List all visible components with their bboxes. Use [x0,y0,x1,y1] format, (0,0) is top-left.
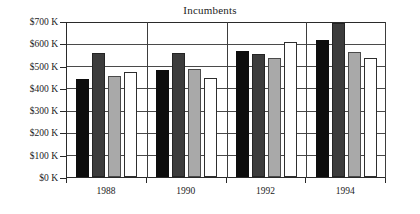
x-axis-tick-label: 1994 [305,186,385,196]
x-axis-tick-mark [66,178,67,183]
bar-chart: Incumbents $0 K$100 K$200 K$300 K$400 K$… [0,0,420,214]
group-separator [147,22,148,178]
bar-1994-series-4 [364,58,377,177]
bar-1990-series-4 [204,78,217,177]
y-axis-tick-label: $200 K [2,128,58,138]
chart-title: Incumbents [0,4,420,16]
group-separator [306,22,307,178]
bar-1994-series-3 [348,52,361,177]
bar-1990-series-3 [188,69,201,177]
y-axis-tick-label: $500 K [2,62,58,72]
bar-1988-series-4 [124,72,137,177]
bar-1988-series-3 [108,76,121,177]
bar-1994-series-2 [332,23,345,177]
y-axis-tick-label: $400 K [2,84,58,94]
y-axis-tick-label: $700 K [2,17,58,27]
x-axis-tick-mark [226,178,227,183]
y-axis-tick-label: $600 K [2,39,58,49]
bar-1992-series-1 [236,51,249,177]
y-axis-tick-label: $0 K [2,173,58,183]
x-axis-tick-mark [385,178,386,183]
x-axis-tick-mark [305,178,306,183]
bar-1992-series-2 [252,54,265,177]
group-separator [385,22,386,178]
x-axis-tick-label: 1988 [66,186,146,196]
y-axis-tick-label: $100 K [2,151,58,161]
bar-1988-series-2 [92,53,105,177]
x-axis-tick-label: 1992 [226,186,306,196]
y-axis-tick-label: $300 K [2,106,58,116]
bar-1990-series-1 [156,70,169,177]
x-axis-tick-label: 1990 [146,186,226,196]
bar-1988-series-1 [76,79,89,177]
plot-area [66,22,385,178]
bar-1990-series-2 [172,53,185,177]
bar-1992-series-3 [268,58,281,177]
x-axis-tick-mark [146,178,147,183]
bar-1992-series-4 [284,42,297,177]
bar-1994-series-1 [316,40,329,177]
group-separator [227,22,228,178]
